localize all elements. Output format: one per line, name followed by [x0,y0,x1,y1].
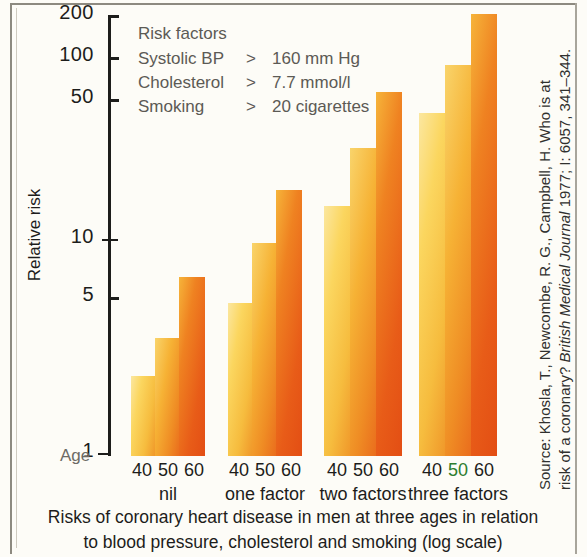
y-tick-label-100: 100 [0,43,100,66]
legend-row-2: Cholesterol>7.7 mmol/l [138,71,369,95]
source-line-2-suffix: 1977; I: 6057, 341–344. [556,49,573,212]
source-line-2-prefix: risk of a coronary? [556,362,573,490]
y-tick-200 [108,15,119,18]
age-tick-50: 50 [158,460,178,480]
legend-title: Risk factors [138,22,369,46]
y-tick-5 [108,297,119,300]
legend-row-3: Smoking>20 cigarettes [138,95,369,119]
legend-factor-name: Cholesterol [138,71,246,95]
y-tick-label-10: 10 [0,225,100,248]
legend-operator: > [246,95,272,119]
source-journal-title: British Medical Journal [556,212,573,363]
y-axis-spine [108,15,111,456]
figure-caption: Risks of coronary heart disease in men a… [18,505,568,556]
source-line-2: risk of a coronary? British Medical Jour… [556,49,573,490]
legend-threshold-value: 20 cigarettes [272,95,369,119]
bar-nil-age-40 [131,376,155,456]
bar-two-factors-age-50 [350,148,376,456]
bar-one-factor-age-60 [276,190,302,456]
risk-factors-legend: Risk factors Systolic BP>160 mm HgCholes… [138,22,369,120]
source-line-1: Source: Khosla, T., Newcombe, R. G., Cam… [536,80,553,490]
y-tick-100 [108,57,119,60]
y-axis-label: Relative risk [25,155,45,315]
legend-factor-name: Smoking [138,95,246,119]
y-tick-label-wrap-100: 100 [0,43,100,66]
bar-two-factors-age-40 [324,206,350,456]
legend-row-1: Systolic BP>160 mm Hg [138,47,369,71]
legend-rows: Systolic BP>160 mm HgCholesterol>7.7 mmo… [138,47,369,119]
source-note-wrapper: Source: Khosla, T., Newcombe, R. G., Cam… [414,4,574,504]
caption-line-1: Risks of coronary heart disease in men a… [18,505,568,530]
caption-line-2: to blood pressure, cholesterol and smoki… [18,530,568,555]
age-axis-label: Age [60,446,90,466]
legend-threshold-value: 160 mm Hg [272,47,360,71]
y-tick-label-wrap-10: 10 [0,225,100,248]
legend-operator: > [246,47,272,71]
legend-threshold-value: 7.7 mmol/l [272,71,350,95]
age-tick-50: 50 [353,460,373,480]
y-tick-label-wrap-200: 200 [0,1,100,24]
bar-two-factors-age-60 [376,92,402,456]
y-tick-label-200: 200 [0,1,100,24]
y-tick-10 [102,239,118,241]
y-tick-50 [108,99,119,102]
bar-nil-age-50 [155,338,179,456]
plot-area: 200100501051 Relative risk Risk factors … [0,0,587,557]
y-tick-label-wrap-5: 5 [0,283,100,306]
age-tick-40: 40 [327,460,347,480]
y-tick-label-50: 50 [0,85,100,108]
y-tick-label-wrap-50: 50 [0,85,100,108]
legend-operator: > [246,71,272,95]
figure-container: 200100501051 Relative risk Risk factors … [0,0,587,557]
y-tick-label-5: 5 [0,283,100,306]
legend-factor-name: Systolic BP [138,47,246,71]
age-tick-40: 40 [132,460,152,480]
bar-one-factor-age-50 [252,243,276,456]
bar-nil-age-60 [179,277,205,456]
age-tick-40: 40 [229,460,249,480]
bar-one-factor-age-40 [228,303,252,456]
age-tick-50: 50 [255,460,275,480]
